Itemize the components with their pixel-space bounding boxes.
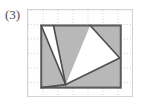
figure-label: (3) — [5, 8, 20, 21]
figure-panel — [27, 9, 133, 97]
figure-shape — [28, 10, 133, 97]
figure-card: (3) — [0, 0, 142, 106]
